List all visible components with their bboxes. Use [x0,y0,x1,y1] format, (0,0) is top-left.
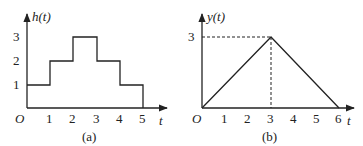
chart-a-ytick: 3 [13,29,20,44]
chart-b-caption: (b) [262,129,277,144]
chart-a-ytick: 2 [13,53,20,68]
chart-a-ylabel: h(t) [32,9,51,24]
chart-a-xtick: 5 [139,111,146,126]
chart-a: h(t) O t 1 2 3 1 2 3 4 5 (a) [13,9,167,144]
chart-b-xtick: 1 [221,111,228,126]
chart-b-xtick: 4 [290,111,297,126]
chart-b-ylabel: y(t) [205,9,225,24]
figure: h(t) O t 1 2 3 1 2 3 4 5 (a) y(t) O t 3 … [0,0,363,146]
chart-b-ytick: 3 [188,29,195,44]
chart-a-xtick: 4 [116,111,123,126]
chart-a-origin: O [15,111,25,126]
chart-b-xtick: 2 [244,111,251,126]
chart-b: y(t) O t 3 1 2 3 4 5 6 (b) [188,9,354,144]
chart-a-caption: (a) [82,129,96,144]
chart-a-step-line [27,37,143,108]
chart-b-xtick: 6 [335,111,342,126]
chart-a-xtick: 1 [46,111,53,126]
chart-a-xlabel: t [159,113,163,128]
chart-b-xtick: 3 [267,111,274,126]
chart-b-origin: O [192,111,202,126]
chart-a-ytick: 1 [13,77,20,92]
chart-b-xtick: 5 [313,111,320,126]
chart-b-xlabel: t [347,113,351,128]
chart-a-xtick: 2 [69,111,76,126]
chart-a-xtick: 3 [93,111,100,126]
